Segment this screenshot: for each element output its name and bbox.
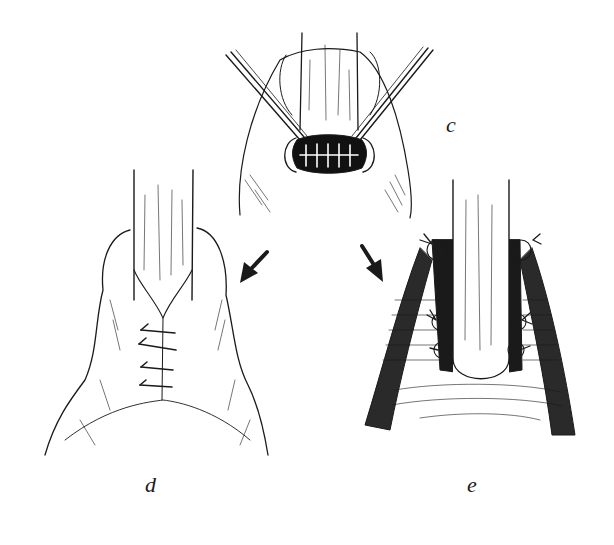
panel-label-e: e [467,474,477,496]
arrow-c-to-d [240,252,267,283]
panel-label-d: d [145,474,156,496]
illustration-drawing [0,0,614,545]
panel-c-drawing [226,33,433,218]
panel-e-drawing [365,180,575,435]
surgical-illustration-figure: c d e [0,0,614,545]
panel-d-drawing [45,170,268,455]
arrow-c-to-e [362,246,383,282]
panel-label-c: c [446,114,456,136]
